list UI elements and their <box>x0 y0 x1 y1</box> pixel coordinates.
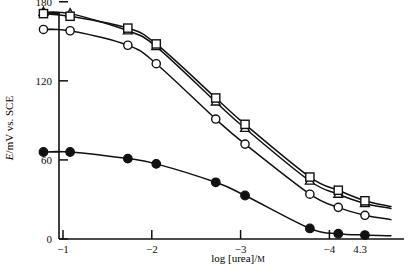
data-curves <box>43 12 391 236</box>
marker-open-circle <box>124 41 132 49</box>
marker-open-square <box>39 10 47 18</box>
marker-filled-circle <box>152 160 161 169</box>
data-markers <box>39 7 369 239</box>
marker-open-circle <box>212 115 220 123</box>
marker-filled-circle <box>334 229 343 238</box>
marker-filled-circle <box>66 148 75 157</box>
x-tick-label: −2 <box>146 243 158 255</box>
marker-filled-circle <box>124 154 133 163</box>
x-tick-marks <box>63 230 329 239</box>
marker-open-circle <box>334 203 342 211</box>
marker-open-circle <box>39 25 47 33</box>
y-tick-label: 0 <box>47 233 53 245</box>
y-tick-label: 120 <box>36 75 53 87</box>
marker-open-circle <box>361 211 369 219</box>
marker-open-circle <box>152 60 160 68</box>
marker-open-circle <box>66 27 74 35</box>
axis-lines <box>59 12 404 239</box>
marker-filled-circle <box>306 224 315 233</box>
marker-open-square <box>361 197 369 205</box>
x-tick-label: −4 <box>324 243 336 255</box>
curve-series-squares <box>43 13 391 206</box>
chart-figure: 060120180 −1−2−3−44.3 log [urea]/M E/mV … <box>0 0 408 270</box>
x-extra-tick-label: 4.3 <box>353 243 367 255</box>
marker-filled-circle <box>39 148 48 157</box>
y-tick-labels: 060120180 <box>36 0 53 245</box>
marker-open-circle <box>241 140 249 148</box>
marker-filled-circle <box>241 191 250 200</box>
marker-open-square <box>152 40 160 48</box>
marker-open-circle <box>306 190 314 198</box>
x-axis-title: log [urea]/M <box>211 252 265 264</box>
marker-open-square <box>241 120 249 128</box>
y-axis-title: E/mV vs. SCE <box>3 96 15 162</box>
marker-filled-circle <box>211 178 220 187</box>
marker-filled-circle <box>361 231 370 240</box>
y-tick-marks <box>59 2 68 239</box>
marker-open-square <box>212 94 220 102</box>
y-tick-label: 180 <box>36 0 53 8</box>
x-tick-label: −1 <box>57 243 69 255</box>
chart-canvas: 060120180 −1−2−3−44.3 log [urea]/M E/mV … <box>0 0 408 270</box>
marker-open-square <box>66 12 74 20</box>
marker-open-square <box>124 24 132 32</box>
marker-open-square <box>306 173 314 181</box>
marker-open-square <box>334 186 342 194</box>
